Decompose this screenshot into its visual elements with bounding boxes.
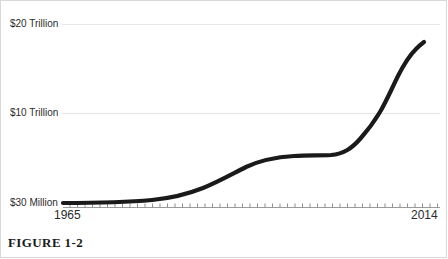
x-axis-tick-label-end: 2014 xyxy=(411,208,438,222)
x-axis-tick-label-start: 1965 xyxy=(54,208,81,222)
chart-plot-area: $20 Trillion $10 Trillion $30 Million xyxy=(0,0,448,230)
figure-container: $20 Trillion $10 Trillion $30 Million xyxy=(0,0,448,259)
figure-caption: FIGURE 1-2 xyxy=(8,235,83,251)
data-series-line xyxy=(0,0,448,230)
